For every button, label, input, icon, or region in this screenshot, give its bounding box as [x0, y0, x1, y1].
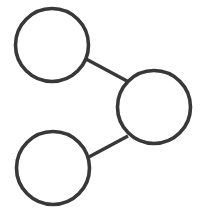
node-circle-right[interactable]	[118, 71, 191, 144]
diagram-canvas	[0, 0, 206, 210]
node-link-diagram	[0, 0, 206, 210]
node-circle-bottom-left[interactable]	[17, 132, 90, 205]
node-circle-top-left[interactable]	[16, 9, 89, 82]
